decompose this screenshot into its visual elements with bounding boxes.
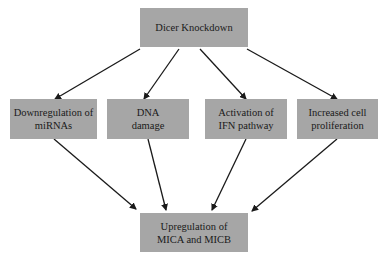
node-dicer-knockdown: Dicer Knockdown <box>140 8 248 47</box>
arrow-dicer-to-ifn <box>200 49 246 99</box>
arrow-dicer-to-mirnas <box>55 49 140 99</box>
node-dna-damage: DNA damage <box>107 99 189 139</box>
node-mica-micb-upregulation: Upregulation of MICA and MICB <box>140 213 248 252</box>
arrow-dna-to-mica <box>148 139 166 210</box>
node-label: Dicer Knockdown <box>155 21 232 34</box>
node-label: Increased cell proliferation <box>305 106 370 132</box>
node-label: Activation of IFN pathway <box>208 106 284 132</box>
flowchart-diagram: Dicer Knockdown Downregulation of miRNAs… <box>0 0 383 258</box>
arrow-proliferation-to-mica <box>252 139 337 211</box>
node-cell-proliferation: Increased cell proliferation <box>297 99 378 139</box>
node-ifn-activation: Activation of IFN pathway <box>205 99 287 139</box>
node-label: DNA damage <box>129 106 167 132</box>
node-label: Upregulation of MICA and MICB <box>146 220 242 246</box>
arrow-ifn-to-mica <box>212 139 246 210</box>
arrow-dicer-to-proliferation <box>247 49 337 99</box>
node-label: Downregulation of miRNAs <box>13 106 94 132</box>
node-downregulation-mirnas: Downregulation of miRNAs <box>10 99 97 139</box>
arrow-dicer-to-dna <box>144 49 179 99</box>
arrow-mirnas-to-mica <box>54 139 136 209</box>
